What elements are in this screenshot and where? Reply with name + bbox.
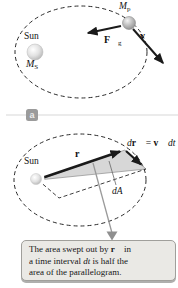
caption-text: in	[122, 244, 131, 254]
planet-sphere	[123, 17, 136, 30]
planet-symbol: M	[119, 1, 127, 11]
sun-mass-subscript: S	[34, 63, 38, 71]
velocity-symbol: v⃗	[140, 30, 153, 41]
caption-text: a time interval	[29, 256, 83, 266]
force-subscript: g	[118, 39, 122, 47]
planet-subscript: p	[127, 5, 131, 13]
sun-label-bottom: Sun	[24, 157, 39, 167]
planet-label: Mp	[119, 2, 130, 13]
dt-term: dt	[166, 138, 176, 148]
panel-a-label: a	[29, 110, 34, 120]
caption-text: The area swept out by	[29, 244, 111, 254]
dA-symbol: dA	[112, 186, 123, 196]
velocity-label: v⃗	[140, 31, 153, 41]
dr-equation-label: dr⃗ = v⃗ dt	[127, 139, 175, 149]
sun-sphere-bottom	[31, 174, 42, 185]
caption-r-symbol: r⃗	[111, 244, 122, 254]
sun-label-top: Sun	[24, 32, 39, 42]
caption-line-2: a time interval dt is half the	[29, 256, 175, 268]
kepler-law-figure: Sun MS Mp F⃗g v⃗ a Sun r⃗ dr⃗ = v⃗ dt dA…	[0, 0, 178, 288]
caption-text: area of the parallelogram.	[29, 267, 121, 277]
caption-text: is half the	[90, 256, 128, 266]
r-vector-label: r⃗	[75, 149, 87, 159]
equals-sign: =	[143, 138, 153, 148]
panel-a-badge: a	[26, 109, 38, 121]
gravity-force-label: F⃗g	[104, 35, 121, 47]
gravity-force-arrow	[88, 26, 121, 33]
area-dA-label: dA	[112, 187, 123, 197]
dr-v-symbol: v⃗	[153, 138, 165, 148]
caption-line-3: area of the parallelogram.	[29, 267, 175, 279]
dr-r-symbol: r⃗	[132, 138, 144, 148]
force-symbol: F⃗	[104, 34, 118, 45]
caption-line-1: The area swept out by r⃗ in	[29, 244, 175, 256]
sun-mass-label: MS	[26, 59, 38, 71]
r-symbol: r⃗	[75, 148, 87, 159]
caption-box: The area swept out by r⃗ in a time inter…	[21, 240, 176, 281]
